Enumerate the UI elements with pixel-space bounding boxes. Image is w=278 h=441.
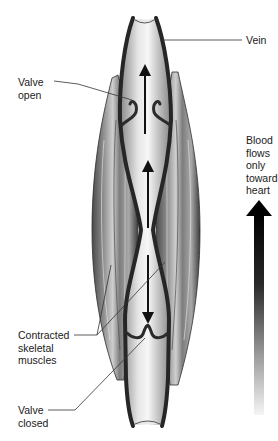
flow-note-label: Blood flows only toward heart bbox=[246, 134, 278, 197]
valve-open-label: Valve open bbox=[18, 76, 44, 101]
muscles-label: Contracted skeletal muscles bbox=[18, 329, 69, 367]
valve-closed-label: Valve closed bbox=[18, 404, 48, 429]
diagram-illustration bbox=[0, 0, 278, 441]
vein-valve-diagram: Vein Valve open Blood flows only toward … bbox=[0, 0, 278, 441]
up-arrow-gradient-icon bbox=[246, 200, 272, 415]
vein-label: Vein bbox=[246, 34, 266, 47]
